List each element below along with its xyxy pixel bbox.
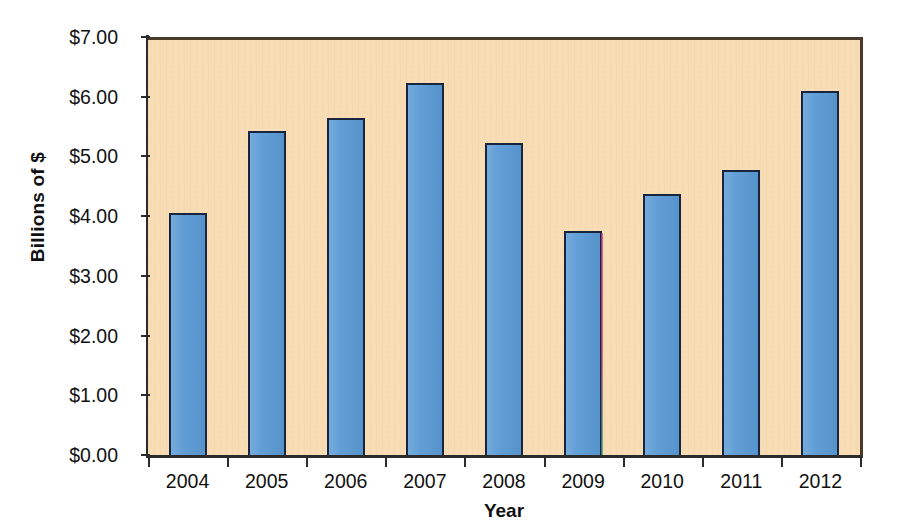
bar-2009 — [564, 231, 602, 459]
bar-sheen — [171, 215, 205, 458]
y-axis-tick-mark — [141, 275, 150, 277]
x-axis-line — [146, 455, 862, 458]
y-axis-tick-label: $7.00 — [26, 26, 118, 49]
y-axis-tick-mark — [141, 394, 150, 396]
bar-2004 — [169, 213, 207, 458]
x-axis-tick-mark — [306, 456, 308, 467]
x-axis-tick-label: 2008 — [459, 470, 549, 493]
y-axis-tick-mark — [141, 155, 150, 157]
y-axis-tick-mark — [141, 215, 150, 217]
x-axis-tick-label: 2006 — [301, 470, 391, 493]
y-axis-tick-label: $5.00 — [26, 145, 118, 168]
bar-2012 — [801, 91, 839, 458]
x-axis-tick-mark — [464, 456, 466, 467]
x-axis-tick-mark — [781, 456, 783, 467]
bar-2008 — [485, 143, 523, 458]
y-axis-tick-label: $3.00 — [26, 264, 118, 287]
bar-sheen — [724, 172, 758, 458]
x-axis-tick-label: 2005 — [222, 470, 312, 493]
bar-2010 — [643, 194, 681, 458]
bar-chart: Billions of $ $0.00$1.00$2.00$3.00$4.00$… — [0, 0, 908, 532]
x-axis-tick-label: 2007 — [380, 470, 470, 493]
y-axis-tick-label: $6.00 — [26, 85, 118, 108]
y-axis-tick-label: $0.00 — [26, 444, 118, 467]
bar-sheen — [250, 133, 284, 458]
y-axis-tick-label: $2.00 — [26, 324, 118, 347]
bar-sheen — [566, 233, 600, 459]
bar-sheen — [645, 196, 679, 458]
y-axis-tick-mark — [141, 96, 150, 98]
x-axis-tick-mark — [148, 456, 150, 467]
bar-sheen — [803, 93, 837, 458]
x-axis-title: Year — [148, 500, 860, 522]
bar-sheen — [487, 145, 521, 458]
plot-area — [148, 37, 863, 458]
y-axis-tick-labels: $0.00$1.00$2.00$3.00$4.00$5.00$6.00$7.00 — [26, 37, 118, 455]
bar-2011 — [722, 170, 760, 458]
bar-sheen — [329, 120, 363, 458]
x-axis-tick-mark — [385, 456, 387, 467]
y-axis-tick-mark — [141, 335, 150, 337]
x-axis-tick-label: 2011 — [696, 470, 786, 493]
x-axis-tick-label: 2009 — [538, 470, 628, 493]
y-axis-tick-label: $4.00 — [26, 205, 118, 228]
bar-2005 — [248, 131, 286, 458]
x-axis-tick-mark — [702, 456, 704, 467]
bar-sheen — [408, 85, 442, 458]
x-axis-tick-mark — [227, 456, 229, 467]
x-axis-tick-mark — [544, 456, 546, 467]
y-axis-tick-label: $1.00 — [26, 384, 118, 407]
y-axis-tick-mark — [141, 36, 150, 38]
x-axis-tick-label: 2010 — [617, 470, 707, 493]
x-axis-tick-mark — [860, 456, 862, 467]
bar-2007 — [406, 83, 444, 458]
x-axis-tick-label: 2012 — [775, 470, 865, 493]
bar-2006 — [327, 118, 365, 458]
x-axis-tick-label: 2004 — [143, 470, 233, 493]
x-axis-tick-mark — [623, 456, 625, 467]
